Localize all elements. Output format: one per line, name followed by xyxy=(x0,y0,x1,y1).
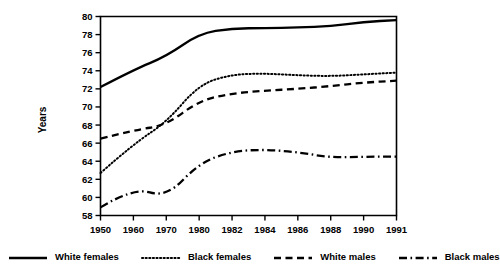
chart-canvas: 586062646668707274767880 195019601970198… xyxy=(0,0,478,240)
legend-label: White males xyxy=(320,251,375,262)
legend-swatch-dotted-icon xyxy=(141,250,181,262)
y-tick-label: 58 xyxy=(82,210,93,221)
x-tick-label: 1980 xyxy=(189,224,210,235)
x-tick-label: 1984 xyxy=(254,224,276,235)
legend-swatch-dashdot-icon xyxy=(398,250,438,262)
legend-swatch-dashed-icon xyxy=(273,250,313,262)
x-tick-label: 1988 xyxy=(320,224,341,235)
y-tick-label: 76 xyxy=(82,47,93,58)
legend-item-black-males[interactable]: Black males xyxy=(398,250,500,262)
legend-swatch-solid-icon xyxy=(8,250,48,262)
y-tick-label: 68 xyxy=(82,120,93,131)
legend-item-white-females[interactable]: White females xyxy=(8,250,119,262)
x-tick-label: 1982 xyxy=(221,224,242,235)
chart-legend: White femalesBlack femalesWhite malesBla… xyxy=(0,243,478,269)
x-tick-label: 1960 xyxy=(123,224,144,235)
line-chart-figure: 586062646668707274767880 195019601970198… xyxy=(0,0,478,240)
y-tick-label: 72 xyxy=(82,83,93,94)
x-tick-label: 1990 xyxy=(353,224,374,235)
y-tick-label: 64 xyxy=(82,156,93,167)
legend-item-white-males[interactable]: White males xyxy=(273,250,375,262)
legend-label: Black females xyxy=(188,251,251,262)
series-line-black-males xyxy=(101,150,397,207)
data-series-group xyxy=(101,20,397,207)
y-tick-label: 62 xyxy=(82,174,93,185)
legend-label: Black males xyxy=(445,251,500,262)
y-axis-title: Years xyxy=(37,106,48,133)
y-tick-label: 74 xyxy=(82,65,93,76)
y-axis-tick-labels: 586062646668707274767880 xyxy=(82,11,93,221)
y-tick-label: 60 xyxy=(82,192,93,203)
y-tick-label: 80 xyxy=(82,11,93,22)
axis-frame xyxy=(101,17,397,216)
x-tick-label: 1970 xyxy=(156,224,177,235)
y-tick-label: 66 xyxy=(82,138,93,149)
legend-item-black-females[interactable]: Black females xyxy=(141,250,251,262)
y-tick-label: 70 xyxy=(82,101,93,112)
y-tick-label: 78 xyxy=(82,29,93,40)
plot-frame xyxy=(101,17,397,216)
legend-label: White females xyxy=(55,251,119,262)
series-line-white-males xyxy=(101,81,397,139)
x-tick-label: 1991 xyxy=(386,224,408,235)
x-tick-label: 1950 xyxy=(90,224,111,235)
x-axis-tick-labels: 1950196019701980198219841986198819901991 xyxy=(90,224,408,235)
x-tick-label: 1986 xyxy=(287,224,308,235)
series-line-white-females xyxy=(101,20,397,87)
